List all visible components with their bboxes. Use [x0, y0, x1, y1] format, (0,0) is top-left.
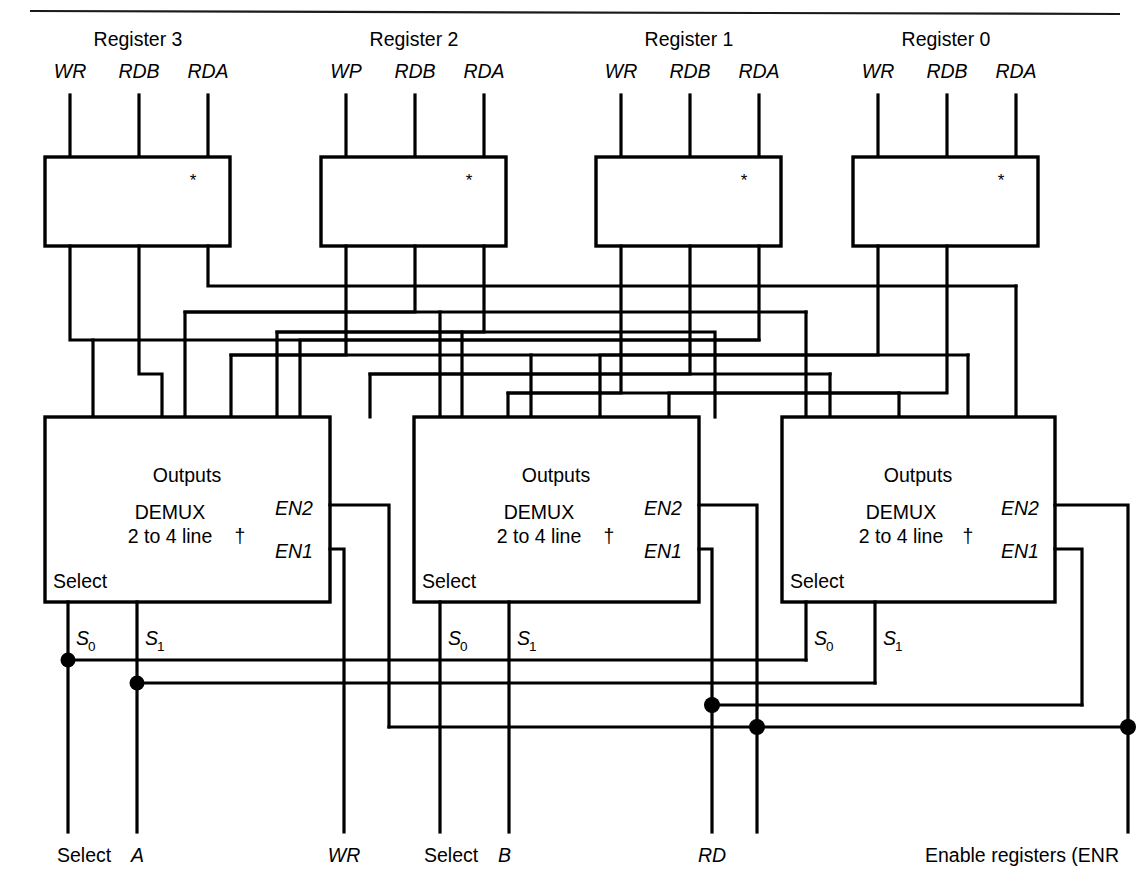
register-1-pin-rda: RDA [738, 60, 779, 82]
demux-right-s1-sub: 1 [895, 639, 903, 654]
register-file-diagram: Register 3 WR RDB RDA * Register 2 WP RD… [0, 0, 1144, 888]
demux-middle-en1-label: EN1 [644, 540, 682, 562]
register-3-box [45, 157, 230, 246]
bottom-label-select-b-plain: Select [424, 844, 479, 866]
demux-middle-s1-sub: 1 [529, 639, 537, 654]
register-1-pin-wr: WR [605, 60, 638, 82]
register-3-pin-wr: WR [54, 60, 87, 82]
demux-left-dagger: † [235, 525, 246, 547]
demux-left-en1-label: EN1 [275, 540, 313, 562]
register-3-pin-rdb: RDB [118, 60, 159, 82]
register-0-pin-rda: RDA [995, 60, 1036, 82]
register-1-title: Register 1 [645, 28, 734, 50]
demux-right-type-line2: 2 to 4 line [859, 525, 944, 547]
register-2-box [321, 157, 506, 246]
register-block-2: Register 2 WP RDB RDA * [321, 28, 506, 246]
register-3-asterisk: * [190, 171, 197, 190]
demux-left-s0-sub: 0 [88, 639, 96, 654]
register-2-pin-rda: RDA [463, 60, 504, 82]
junction-dot-rd [704, 697, 720, 713]
register-block-1: Register 1 WR RDB RDA * [596, 28, 781, 246]
bottom-bus-network [61, 653, 1137, 833]
bottom-label-select-b-italic: B [498, 844, 511, 866]
figure-canvas: Register 3 WR RDB RDA * Register 2 WP RD… [0, 0, 1144, 888]
top-rule [30, 11, 1120, 14]
demux-middle-type-line2: 2 to 4 line [497, 525, 582, 547]
demux-left-s1-sub: 1 [157, 639, 165, 654]
register-0-box [853, 157, 1038, 246]
register-1-pin-rdb: RDB [669, 60, 710, 82]
register-0-pin-rdb: RDB [926, 60, 967, 82]
register-0-title: Register 0 [902, 28, 991, 50]
demux-right-dagger: † [963, 525, 974, 547]
bottom-input-labels: Select A WR Select B RD Enable registers… [57, 844, 1119, 866]
demux-middle-dagger: † [604, 525, 615, 547]
demux-left: Outputs DEMUX 2 to 4 line † EN2 EN1 Sele… [45, 417, 389, 832]
demux-right-outputs-label: Outputs [884, 464, 953, 486]
demux-middle-s0-sub: 0 [460, 639, 468, 654]
register-2-asterisk: * [466, 171, 473, 190]
demux-middle: Outputs DEMUX 2 to 4 line † EN2 EN1 Sele… [414, 417, 757, 832]
register-2-title: Register 2 [370, 28, 459, 50]
demux-left-outputs-label: Outputs [153, 464, 222, 486]
junction-dot-enr [1120, 719, 1136, 735]
demux-middle-select-label: Select [422, 570, 477, 592]
interconnect-routing [70, 246, 1016, 417]
demux-right: Outputs DEMUX 2 to 4 line † EN2 EN1 Sele… [782, 417, 1128, 727]
register-0-asterisk: * [998, 171, 1005, 190]
register-3-pin-rda: RDA [187, 60, 228, 82]
register-1-asterisk: * [741, 171, 748, 190]
register-2-pin-wp: WP [330, 60, 361, 82]
bottom-label-wr: WR [328, 844, 361, 866]
demux-left-en2-label: EN2 [275, 497, 313, 519]
demux-right-select-label: Select [790, 570, 845, 592]
demux-right-s0-sub: 0 [826, 639, 834, 654]
bottom-label-select-a-plain: Select [57, 844, 112, 866]
junction-dot-select-a-s0 [61, 653, 76, 668]
junction-dot-select-a-s1 [130, 676, 145, 691]
demux-left-type-line2: 2 to 4 line [128, 525, 213, 547]
demux-left-type-line1: DEMUX [135, 501, 205, 523]
demux-right-type-line1: DEMUX [866, 501, 936, 523]
demux-middle-outputs-label: Outputs [522, 464, 591, 486]
register-block-0: Register 0 WR RDB RDA * [853, 28, 1038, 246]
bottom-label-rd: RD [698, 844, 726, 866]
demux-middle-en2-label: EN2 [644, 497, 682, 519]
bottom-label-enable-registers: Enable registers (ENR [925, 844, 1119, 866]
register-block-3: Register 3 WR RDB RDA * [45, 28, 230, 246]
demux-middle-type-line1: DEMUX [504, 501, 574, 523]
demux-right-en2-label: EN2 [1001, 497, 1039, 519]
demux-left-select-label: Select [53, 570, 108, 592]
register-2-pin-rdb: RDB [394, 60, 435, 82]
register-0-pin-wr: WR [862, 60, 895, 82]
junction-dot-rd-aux [749, 719, 765, 735]
register-3-title: Register 3 [94, 28, 183, 50]
bottom-label-select-a-italic: A [130, 844, 144, 866]
demux-right-en1-label: EN1 [1001, 540, 1039, 562]
register-1-box [596, 157, 781, 246]
